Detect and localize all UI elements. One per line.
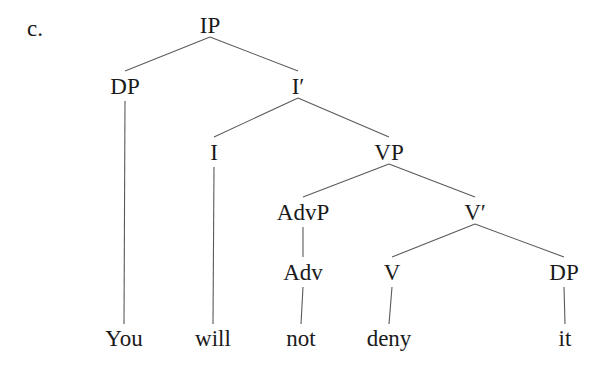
syntax-tree-diagram: c. IPDPI′IVPAdvPV′AdvVDPYouwillnotdenyit [0,0,606,370]
edge-VP-AdvP [303,164,389,197]
node-ip: IP [200,14,220,37]
node-vp: VP [374,141,403,164]
edge-Vbar-V [392,224,475,257]
edge-VP-Vbar [389,164,475,197]
edge-Ibar-VP [298,98,389,137]
node-advp: AdvP [277,201,329,224]
edge-I-will [213,167,214,324]
node-dp1: DP [110,75,139,98]
node-i: I [210,141,218,164]
leaf-word-not: not [286,327,315,350]
edge-IP-DP1 [125,37,210,71]
leaf-word-it: it [559,327,572,350]
edge-Ibar-I [214,98,298,137]
edge-Vbar-DP2 [475,224,564,257]
node-dp2: DP [549,261,578,284]
node-v: V [384,261,401,284]
edge-DP2-it [564,287,565,324]
node-vbar: V′ [464,201,486,224]
tree-edges [0,0,606,370]
edge-Adv-not [301,287,303,324]
edge-V-deny [389,287,392,324]
leaf-word-you: You [105,327,142,350]
node-adv: Adv [283,261,323,284]
edge-DP1-You [124,101,125,324]
edge-IP-Ibar [210,37,298,71]
leaf-word-will: will [195,327,231,350]
node-ibar: I′ [292,75,305,98]
leaf-word-deny: deny [367,327,412,350]
